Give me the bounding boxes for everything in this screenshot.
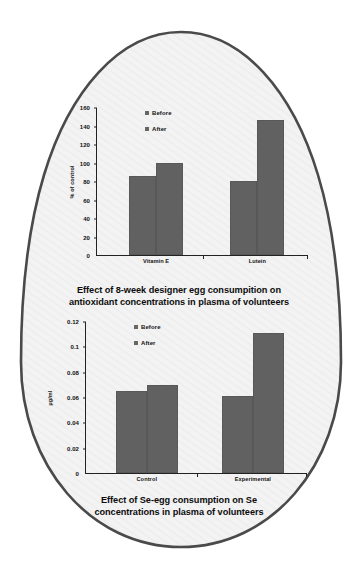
bar-after	[156, 163, 183, 255]
caption-line: concentrations in plasma of volunteers	[29, 507, 329, 519]
y-tick-label: 0.1	[71, 344, 80, 350]
bar-before	[129, 176, 156, 255]
chart-antioxidants: % of control 160 140 120 100 80 60 40	[58, 108, 314, 256]
chart-selenium: µg/ml 0.12 0.1 0.08 0.06 0.04 0.02 0	[45, 322, 313, 474]
y-tick-label: 0.06	[67, 395, 79, 401]
legend-bottom: Before After	[134, 324, 161, 356]
bar-after	[147, 385, 178, 473]
legend-swatch-icon	[134, 325, 138, 329]
y-tick-label: 60	[83, 198, 90, 204]
plot-area-bottom: Before After Control	[85, 322, 307, 474]
legend-label: After	[141, 340, 156, 346]
caption-selenium: Effect of Se-egg consumption on Se conce…	[29, 495, 329, 518]
y-tick-label: 160	[80, 105, 90, 111]
legend-swatch-icon	[145, 127, 149, 131]
y-tick-label: 0	[87, 253, 90, 259]
x-tick-label: Experimental	[208, 476, 298, 482]
caption-line: Effect of Se-egg consumption on Se	[29, 495, 329, 507]
y-tick-label: 140	[80, 124, 90, 130]
caption-antioxidants: Effect of 8-week designer egg consumpiti…	[29, 285, 329, 308]
legend-label: Before	[152, 110, 172, 116]
bar-group-lutein: Lutein	[211, 108, 304, 255]
y-tick-label: 40	[83, 216, 90, 222]
bar-group-experimental: Experimental	[203, 322, 302, 473]
legend-item-after: After	[134, 340, 161, 346]
legend-item-after: After	[145, 126, 172, 132]
y-tick-label: 0.12	[67, 319, 79, 325]
legend-label: Before	[141, 324, 161, 330]
legend-label: After	[152, 126, 167, 132]
egg-infographic: % of control 160 140 120 100 80 60 40	[0, 0, 358, 572]
legend-item-before: Before	[145, 110, 172, 116]
y-tick-label: 80	[83, 179, 90, 185]
bar-before	[222, 396, 253, 473]
y-tick-label: 100	[80, 161, 90, 167]
bars-bottom: Control Experimental	[86, 322, 307, 473]
y-tick-label: 0.04	[67, 420, 79, 426]
bar-before	[230, 181, 257, 255]
x-tick-label: Vitamin E	[111, 258, 201, 264]
x-tick-label: Control	[102, 476, 192, 482]
y-tick-label: 0.02	[67, 446, 79, 452]
y-axis-ticks-bottom: 0.12 0.1 0.08 0.06 0.04 0.02 0	[53, 322, 83, 474]
legend-swatch-icon	[134, 341, 138, 345]
legend-item-before: Before	[134, 324, 161, 330]
y-tick-label: 120	[80, 142, 90, 148]
bar-after	[253, 333, 284, 473]
y-tick-label: 0	[76, 471, 79, 477]
legend-swatch-icon	[145, 111, 149, 115]
y-axis-ticks-top: 160 140 120 100 80 60 40 20 0	[68, 108, 94, 256]
y-tick-label: 0.08	[67, 370, 79, 376]
caption-line: Effect of 8-week designer egg consumpiti…	[29, 285, 329, 297]
plot-area-top: Before After Vitamin E	[96, 108, 308, 256]
legend-top: Before After	[145, 110, 172, 142]
x-tick-label: Lutein	[212, 258, 302, 264]
bar-before	[116, 391, 147, 473]
bar-after	[257, 120, 284, 255]
bars-top: Vitamin E Lutein	[97, 108, 308, 255]
y-tick-label: 20	[83, 235, 90, 241]
caption-line: antioxidant concentrations in plasma of …	[29, 297, 329, 309]
